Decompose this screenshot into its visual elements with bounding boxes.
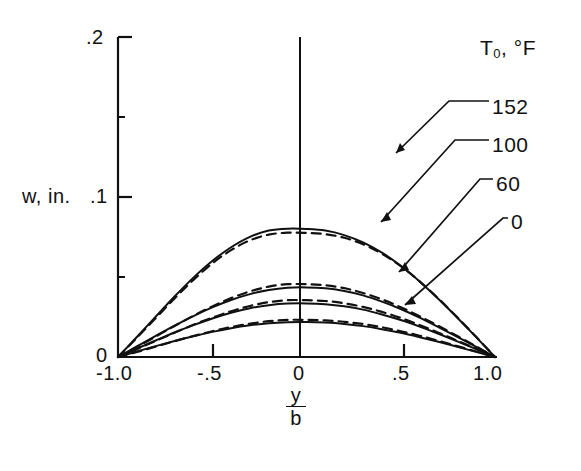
x-tick-label-0: 0 [293,362,305,385]
legend-label-100[interactable]: 100 [492,133,529,157]
x-tick-label--0.5: -.5 [197,362,222,385]
x-axis-title-numerator: y [286,385,306,405]
x-tick-label--1.0: -1.0 [96,362,132,385]
legend-title: T0, °F [480,36,536,61]
axis-lines [118,37,497,357]
legend-label-0[interactable]: 0 [511,210,523,234]
y-ticks [118,37,132,277]
legend-leader-lines [381,101,508,305]
y-tick-label-0.2: .2 [86,26,104,49]
data-curves [118,229,495,357]
leader-line-152 [396,101,489,153]
x-axis-title-denominator: b [286,408,306,428]
x-axis-title: y b [286,385,306,428]
curve-152-dashed [118,233,495,357]
y-tick-label-0.1: .1 [90,185,108,208]
legend-title-units: , °F [501,36,536,59]
curve-152-solid [118,229,495,357]
y-axis-title: w, in. [22,185,71,208]
deflection-chart-figure: .2 .1 0 w, in. -1.0 -.5 0 .5 1.0 y b T0,… [0,0,581,471]
x-tick-label-0.5: .5 [392,362,410,385]
curve-100-dashed [118,284,495,357]
legend-title-symbol: T [480,36,493,59]
legend-label-60[interactable]: 60 [496,172,520,196]
leader-line-60 [399,179,493,272]
curve-60-dashed [118,300,495,357]
x-ticks [213,344,404,357]
legend-title-subscript: 0 [493,46,501,61]
x-tick-label-1.0: 1.0 [473,362,502,385]
leader-line-0 [405,218,508,305]
curve-60-solid [118,303,495,357]
legend-label-152[interactable]: 152 [492,95,529,119]
